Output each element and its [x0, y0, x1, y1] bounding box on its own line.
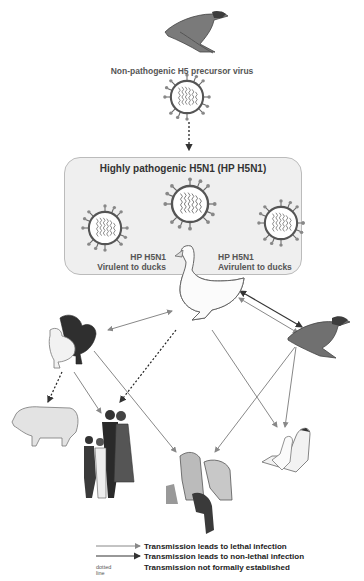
edge-chickens-humans: [74, 372, 101, 413]
edge-duck-wildduck-dark: [240, 291, 302, 327]
legend-text-lethal: Transmission leads to lethal infection: [144, 542, 287, 551]
humans-illustration: [84, 410, 134, 498]
edge-wildduck-felines: [215, 347, 295, 452]
wild-duck-right-illustration: [288, 316, 350, 358]
virus-left-line1: HP H5N1: [86, 252, 166, 262]
virus-left-label: HP H5N1 Virulent to ducks: [86, 252, 166, 272]
pig-illustration: [12, 407, 78, 446]
precursor-virus-icon: [163, 73, 211, 121]
felines-ferret-illustration: [166, 452, 232, 534]
geese-illustration: [262, 428, 310, 472]
virus-right-label: HP H5N1 Avirulent to ducks: [218, 252, 292, 272]
virus-right-line1: HP H5N1: [218, 252, 292, 262]
precursor-label: Non-pathogenic H5 precursor virus: [0, 66, 364, 76]
edge-wildduck-geese: [285, 347, 296, 427]
hp-h5n1-title: Highly pathogenic H5N1 (HP H5N1): [64, 163, 302, 174]
wild-duck-top-illustration: [165, 11, 228, 53]
legend-dotted-marker: dotted line: [96, 564, 111, 576]
edge-duck-geese: [212, 330, 277, 427]
edge-chickens-pig-dotted: [48, 372, 62, 402]
diagram-canvas: [0, 0, 364, 581]
edge-duck-humans-dotted: [120, 330, 176, 402]
edge-duck-chickens: [108, 311, 172, 330]
virus-right-line2: Avirulent to ducks: [218, 262, 292, 272]
edge-duck-wildduck-gray: [239, 298, 298, 333]
legend-text-non-lethal: Transmission leads to non-lethal infecti…: [144, 552, 304, 561]
legend-text-dotted: Transmission not formally established: [144, 563, 290, 572]
chickens-illustration: [49, 315, 96, 368]
virus-left-line2: Virulent to ducks: [86, 262, 166, 272]
